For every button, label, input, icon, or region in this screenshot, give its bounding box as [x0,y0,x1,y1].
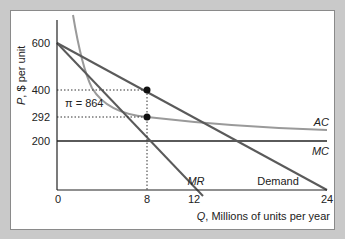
y-tick-292: 292 [32,111,50,123]
x-tick-8: 8 [144,193,150,205]
chart-svg: 600 400 292 200 0 8 12 24 P, $ per unit … [0,0,345,239]
x-axis-title: Q, Millions of units per year [197,210,331,222]
mr-line [57,43,203,196]
y-tick-400: 400 [32,84,50,96]
profit-label: π = 864 [65,97,103,109]
y-tick-600: 600 [32,37,50,49]
y-axis-title: P, $ per unit [15,46,27,105]
x-tick-12: 12 [188,193,200,205]
ac-label: AC [313,116,329,128]
monopoly-point [144,87,151,94]
mc-label: MC [312,145,329,157]
y-tick-200: 200 [32,135,50,147]
mr-label: MR [187,175,204,187]
ac-point [144,114,151,121]
x-tick-0: 0 [55,193,61,205]
demand-label: Demand [257,175,299,187]
demand-line [57,43,327,190]
x-tick-24: 24 [321,193,333,205]
